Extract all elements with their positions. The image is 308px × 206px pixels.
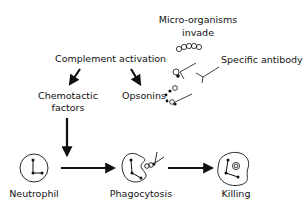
opsonins-group — [165, 86, 192, 106]
antibody-icon — [196, 67, 219, 83]
label-factors: factors — [38, 102, 98, 113]
microorganism-chain-icon — [176, 43, 201, 51]
label-specific-antibody: Specific antibody — [221, 54, 303, 65]
label-chemotactic: Chemotactic — [38, 90, 98, 101]
label-killing: Killing — [214, 188, 258, 199]
label-invade: invade — [158, 27, 238, 38]
neutrophil-cell-icon — [20, 154, 48, 182]
label-microorganisms: Micro-organisms — [148, 14, 248, 25]
label-neutrophil: Neutrophil — [6, 188, 62, 199]
phagocyte-cell-icon — [122, 152, 164, 182]
opsonin-dot-icon — [176, 74, 180, 78]
killing-cell-icon — [218, 152, 249, 185]
label-phagocytosis: Phagocytosis — [106, 188, 176, 199]
label-complement-activation: Complement activation — [55, 53, 166, 64]
label-opsonins: Opsonins — [122, 90, 166, 101]
